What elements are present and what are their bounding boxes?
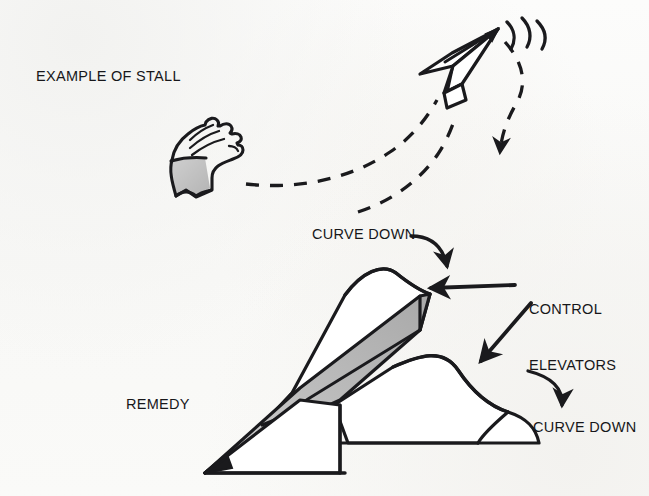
hand-thumb-crease <box>229 146 238 151</box>
dashed-stall-fall-arrow <box>500 42 523 152</box>
caption-control-elevators-line1: CONTROL <box>529 300 616 319</box>
caption-remedy: REMEDY <box>126 395 190 414</box>
dashed-launch-trajectory <box>246 100 437 186</box>
diagram-page: EXAMPLE OF STALL CURVE DOWN CONTROL ELEV… <box>0 0 649 496</box>
caption-curve-down-top: CURVE DOWN <box>312 225 415 244</box>
stall-motion-arcs <box>507 18 545 49</box>
caption-control-elevators: CONTROL ELEVATORS <box>529 263 616 411</box>
control-elevators-pointer-right <box>481 303 531 361</box>
curve-down-arrow-top <box>411 236 447 266</box>
example-of-stall-illustration <box>171 18 545 212</box>
stall-arc-3 <box>537 21 545 49</box>
throwing-hand-icon <box>171 118 243 197</box>
caption-example-of-stall: EXAMPLE OF STALL <box>36 67 181 86</box>
caption-curve-down-bottom: CURVE DOWN <box>533 418 636 437</box>
paper-dart-plane-climbing <box>420 29 498 108</box>
remedy-illustration <box>205 236 562 473</box>
caption-control-elevators-line2: ELEVATORS <box>529 356 616 375</box>
control-elevators-pointer-left <box>431 285 515 288</box>
stall-arc-2 <box>522 18 530 47</box>
